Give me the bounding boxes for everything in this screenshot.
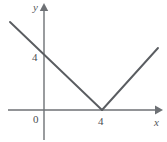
- x-axis-arrow-icon: [155, 106, 163, 115]
- y-intercept-tick-label: 4: [32, 52, 38, 63]
- x-axis-label: x: [154, 117, 159, 128]
- graph-figure: y x 4 0 4: [0, 0, 167, 142]
- x-vertex-tick-label: 4: [98, 116, 104, 127]
- coordinate-plane-svg: [0, 0, 167, 142]
- curve-left-branch: [10, 22, 102, 110]
- curve-right-branch: [102, 48, 158, 110]
- origin-tick-label: 0: [33, 114, 39, 125]
- y-axis-label: y: [33, 2, 38, 13]
- y-axis-arrow-icon: [40, 3, 48, 11]
